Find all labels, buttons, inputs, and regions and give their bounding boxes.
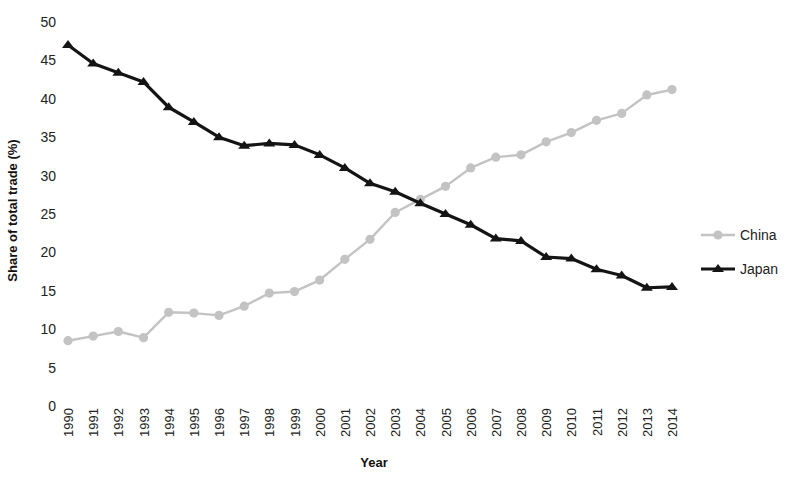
- legend-marker-triangle-icon: [700, 262, 736, 276]
- data-point-china-1995: [189, 308, 198, 317]
- data-point-china-2011: [592, 116, 601, 125]
- data-point-china-2001: [340, 255, 349, 264]
- y-axis-tick-50: 50: [10, 14, 56, 30]
- series-line-japan: [68, 45, 672, 288]
- data-point-china-1998: [265, 289, 274, 298]
- series-japan: [62, 40, 678, 291]
- y-axis-tick-35: 35: [10, 129, 56, 145]
- series-line-china: [68, 90, 672, 341]
- data-point-china-1999: [290, 287, 299, 296]
- data-point-china-1992: [114, 327, 123, 336]
- data-point-china-1996: [214, 311, 223, 320]
- legend-marker-circle-icon: [700, 228, 736, 242]
- data-point-china-2012: [617, 109, 626, 118]
- plot-area: [58, 0, 690, 420]
- data-point-japan-1990: [62, 40, 74, 48]
- line-chart: Share of total trade (%) 051015202530354…: [0, 0, 792, 483]
- data-point-china-2000: [315, 275, 324, 284]
- y-axis-tick-5: 5: [10, 360, 56, 376]
- data-point-china-2007: [491, 153, 500, 162]
- plot-svg: [58, 0, 690, 420]
- data-point-china-2003: [391, 208, 400, 217]
- data-point-china-2008: [516, 150, 525, 159]
- data-point-china-1990: [63, 336, 72, 345]
- legend-item-china[interactable]: China: [700, 218, 790, 252]
- legend-label: China: [740, 227, 777, 243]
- legend-label: Japan: [740, 261, 778, 277]
- data-point-china-1993: [139, 333, 148, 342]
- data-point-china-2002: [365, 235, 374, 244]
- data-point-china-2005: [441, 182, 450, 191]
- y-axis-tick-25: 25: [10, 206, 56, 222]
- chart-legend: ChinaJapan: [700, 218, 790, 286]
- y-axis-tick-20: 20: [10, 244, 56, 260]
- data-point-china-2006: [466, 163, 475, 172]
- data-point-china-1997: [240, 302, 249, 311]
- y-axis-tick-10: 10: [10, 321, 56, 337]
- y-axis-tick-30: 30: [10, 168, 56, 184]
- x-axis-tick-labels: 1990199119921993199419951996199719981999…: [58, 408, 690, 458]
- data-point-china-2009: [542, 137, 551, 146]
- x-axis-tick-2014: 2014: [649, 408, 695, 454]
- data-point-china-1994: [164, 308, 173, 317]
- series-china: [63, 85, 676, 345]
- x-axis-tick-label: 2014: [665, 408, 680, 437]
- data-point-china-1991: [89, 332, 98, 341]
- y-axis-tick-40: 40: [10, 91, 56, 107]
- x-axis-title: Year: [58, 455, 690, 470]
- y-axis-tick-15: 15: [10, 283, 56, 299]
- y-axis-tick-45: 45: [10, 52, 56, 68]
- data-point-china-2010: [567, 128, 576, 137]
- data-point-china-2014: [667, 85, 676, 94]
- legend-item-japan[interactable]: Japan: [700, 252, 790, 286]
- legend-marker-glyph: [713, 230, 722, 239]
- data-point-china-2013: [642, 90, 651, 99]
